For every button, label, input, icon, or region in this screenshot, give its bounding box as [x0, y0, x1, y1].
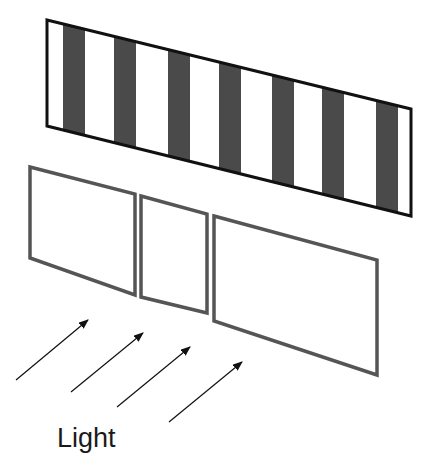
dark-stripe [272, 0, 294, 240]
dark-stripe [376, 0, 398, 240]
light-ray-arrow-icon [16, 320, 88, 380]
panel-middle [141, 196, 207, 313]
light-label: Light [57, 423, 116, 453]
dark-stripe [219, 0, 241, 240]
aperture-panels [30, 167, 377, 375]
light-ray-arrow-icon [71, 333, 143, 392]
panel-left [30, 167, 135, 295]
light-ray-arrow-icon [117, 347, 190, 407]
light-arrows [16, 320, 242, 422]
panel-right [214, 216, 377, 375]
dark-stripe [63, 0, 85, 240]
dark-stripe [322, 0, 344, 240]
light-ray-arrow-icon [169, 362, 242, 422]
diffraction-diagram: Light [0, 0, 431, 466]
striped-grating [47, 0, 411, 240]
